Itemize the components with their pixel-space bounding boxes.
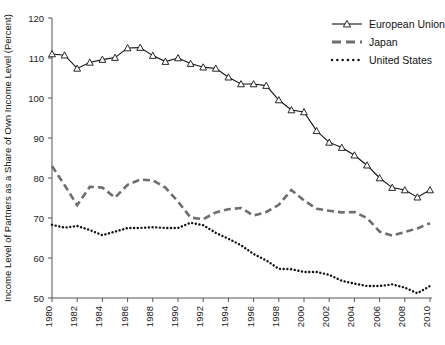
x-axis-tick-label: 1980 (43, 306, 54, 327)
x-axis-tick-label: 1988 (144, 306, 155, 327)
series-line (52, 223, 430, 293)
series-line (52, 166, 430, 236)
chart-figure: 5060708090100110120198019821984198619881… (0, 0, 445, 345)
legend-item-japan[interactable]: Japan (332, 36, 398, 48)
y-axis-tick-label: 50 (33, 293, 44, 304)
x-axis-tick-label: 2006 (371, 306, 382, 327)
legend-label: European Union (369, 18, 445, 30)
y-axis-tick-label: 110 (29, 53, 44, 64)
series-marker (338, 144, 345, 150)
series-marker (427, 187, 434, 193)
x-axis-tick-label: 1994 (219, 306, 230, 327)
x-axis-tick-label: 1992 (194, 306, 205, 327)
series-line (52, 48, 430, 198)
legend-item-us[interactable]: United States (332, 54, 432, 66)
legend-label: Japan (369, 36, 398, 48)
x-axis-tick-label: 2004 (345, 306, 356, 327)
y-axis-title: Income Level of Partners as a Share of O… (2, 14, 13, 302)
x-axis-tick-label: 1982 (68, 306, 79, 327)
series-marker (175, 55, 182, 61)
x-axis-tick-label: 1998 (270, 306, 281, 327)
legend-label: United States (369, 54, 432, 66)
y-axis-tick-label: 80 (33, 173, 44, 184)
series-marker (351, 152, 358, 158)
x-axis-tick-label: 1996 (245, 306, 256, 327)
series-united-states (52, 223, 430, 293)
series-japan (52, 166, 430, 236)
y-axis-tick-label: 100 (28, 93, 44, 104)
series-marker (149, 52, 156, 58)
x-axis-tick-label: 1990 (169, 306, 180, 327)
series-marker (225, 74, 232, 80)
x-axis-tick-label: 1984 (93, 306, 104, 327)
series-marker (313, 127, 320, 133)
y-axis-tick-label: 60 (33, 253, 44, 264)
series-marker (414, 194, 421, 200)
legend-item-eu[interactable]: European Union (332, 18, 445, 30)
x-axis-tick-label: 2010 (421, 306, 432, 327)
x-axis-tick-label: 2000 (295, 306, 306, 327)
y-axis-tick-label: 70 (33, 213, 44, 224)
x-axis-tick-label: 1986 (119, 306, 130, 327)
y-axis-tick-label: 120 (28, 13, 44, 24)
series-european-union (49, 44, 434, 200)
y-axis-tick-label: 90 (33, 133, 44, 144)
line-chart-canvas: 5060708090100110120198019821984198619881… (0, 0, 445, 345)
series-marker (187, 60, 194, 66)
x-axis-tick-label: 2008 (396, 306, 407, 327)
x-axis-tick-label: 2002 (320, 306, 331, 327)
